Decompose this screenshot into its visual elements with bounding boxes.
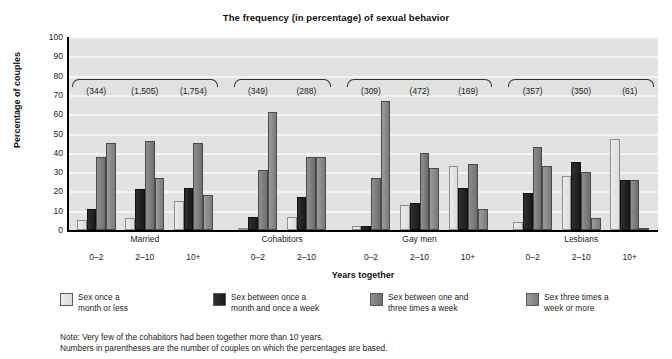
x-axis-category-label: 10+ xyxy=(461,252,475,262)
bar xyxy=(352,226,362,230)
x-axis-group-label: Gay men xyxy=(402,234,437,244)
bar xyxy=(533,147,543,230)
footnote-line-2: Numbers in parentheses are the number of… xyxy=(60,343,660,354)
bar xyxy=(513,222,523,230)
bar xyxy=(458,188,468,230)
bar xyxy=(258,170,268,230)
bar xyxy=(523,193,533,230)
sample-size-label: (350) xyxy=(571,86,591,96)
sample-size-label: (357) xyxy=(523,86,543,96)
footnote-line-1: Note: Very few of the cohabitors had bee… xyxy=(60,332,660,343)
bar xyxy=(248,217,258,231)
legend-label: Sex once a month or less xyxy=(78,292,128,313)
y-axis-tick-label: 0 xyxy=(8,225,68,235)
x-axis-group-label: Cohabitors xyxy=(262,234,303,244)
bar xyxy=(542,166,552,230)
bar xyxy=(468,164,478,230)
bar xyxy=(287,217,297,231)
legend-label: Sex between once a month and once a week xyxy=(231,292,319,313)
bar xyxy=(639,228,649,230)
legend-label: Sex three times a week or more xyxy=(544,292,609,313)
chart-title: The frequency (in percentage) of sexual … xyxy=(0,12,672,23)
bar xyxy=(106,143,116,230)
x-axis-category-label: 10+ xyxy=(623,252,637,262)
x-axis-category-label: 0–2 xyxy=(89,252,103,262)
legend-item[interactable]: Sex between once a month and once a week xyxy=(213,292,319,313)
bar xyxy=(400,205,410,230)
legend-swatch xyxy=(370,293,383,306)
chart-container: The frequency (in percentage) of sexual … xyxy=(0,0,672,359)
bar xyxy=(268,112,278,230)
sample-size-label: (1,505) xyxy=(131,86,158,96)
bar xyxy=(449,166,459,230)
bar xyxy=(203,195,213,230)
legend-item[interactable]: Sex once a month or less xyxy=(60,292,128,313)
bar xyxy=(145,141,155,230)
sample-size-label: (288) xyxy=(297,86,317,96)
y-axis-tick-label: 10 xyxy=(8,206,68,216)
bar xyxy=(87,209,97,230)
x-axis-group-labels: MarriedCohabitorsGay menLesbians xyxy=(68,234,658,248)
sample-size-label: (349) xyxy=(248,86,268,96)
x-axis-category-label: 0–2 xyxy=(251,252,265,262)
x-axis-category-label: 0–2 xyxy=(526,252,540,262)
bar xyxy=(155,178,165,230)
legend-item[interactable]: Sex between one and three times a week xyxy=(370,292,468,313)
bar xyxy=(610,139,620,230)
x-axis-category-label: 0–2 xyxy=(364,252,378,262)
sample-size-label: (344) xyxy=(86,86,106,96)
bar xyxy=(77,220,87,230)
x-axis-category-label: 10+ xyxy=(186,252,200,262)
sample-size-brackets: (344)(1,505)(1,754)(349)(288)(309)(472)(… xyxy=(68,79,658,101)
sample-size-label: (309) xyxy=(361,86,381,96)
legend-swatch xyxy=(60,293,73,306)
bar xyxy=(184,188,194,230)
legend-swatch xyxy=(526,293,539,306)
x-axis-category-label: 2–10 xyxy=(410,252,429,262)
bar xyxy=(297,197,307,230)
bar xyxy=(306,157,316,230)
bar xyxy=(581,172,591,230)
x-axis-category-label: 2–10 xyxy=(297,252,316,262)
bar xyxy=(620,180,630,230)
x-axis-line xyxy=(67,230,658,232)
bar xyxy=(361,226,371,230)
bar xyxy=(562,176,572,230)
bar xyxy=(125,218,135,230)
bar xyxy=(193,143,203,230)
legend-label: Sex between one and three times a week xyxy=(388,292,468,313)
bar xyxy=(410,203,420,230)
sample-size-label: (472) xyxy=(410,86,430,96)
legend-swatch xyxy=(213,293,226,306)
bars-layer xyxy=(68,37,658,230)
bar xyxy=(96,157,106,230)
x-axis-title: Years together xyxy=(68,270,658,280)
bar xyxy=(429,168,439,230)
x-axis-category-labels: 0–22–1010+0–22–100–22–1010+0–22–1010+ xyxy=(68,252,658,266)
sample-size-label: (1,754) xyxy=(180,86,207,96)
footnote: Note: Very few of the cohabitors had bee… xyxy=(60,332,660,354)
bar xyxy=(238,228,248,230)
bar xyxy=(371,178,381,230)
bar xyxy=(571,162,581,230)
x-axis-group-label: Lesbians xyxy=(564,234,598,244)
sample-size-label: (61) xyxy=(622,86,637,96)
bar xyxy=(135,189,145,230)
bar xyxy=(316,157,326,230)
x-axis-category-label: 2–10 xyxy=(135,252,154,262)
x-axis-group-label: Married xyxy=(130,234,159,244)
bar xyxy=(478,209,488,230)
bar xyxy=(420,153,430,230)
y-axis-ticks: 0102030405060708090100 xyxy=(0,0,68,232)
y-axis-title: Percentage of couples xyxy=(12,5,22,195)
x-axis-category-label: 2–10 xyxy=(572,252,591,262)
bar xyxy=(630,180,640,230)
bar xyxy=(591,218,601,230)
sample-size-label: (169) xyxy=(458,86,478,96)
bar xyxy=(381,101,391,230)
bar xyxy=(174,201,184,230)
legend-item[interactable]: Sex three times a week or more xyxy=(526,292,609,313)
legend: Sex once a month or lessSex between once… xyxy=(60,292,660,318)
